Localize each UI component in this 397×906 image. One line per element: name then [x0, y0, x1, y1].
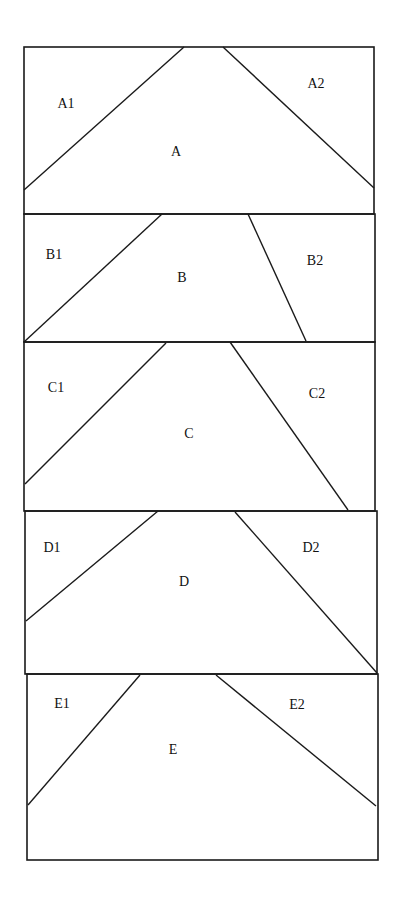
panel-a: AA1A2 — [24, 47, 374, 214]
panel-border — [24, 47, 374, 214]
left-diagonal-line — [26, 511, 158, 621]
right-region-label: E2 — [289, 697, 305, 712]
right-diagonal-line — [230, 342, 348, 510]
left-diagonal-line — [25, 343, 166, 484]
right-region-label: B2 — [307, 253, 323, 268]
panel-border — [27, 674, 378, 860]
panel-border — [24, 342, 375, 511]
center-label: E — [169, 742, 178, 757]
panel-b: BB1B2 — [24, 214, 375, 342]
panel-border — [24, 214, 375, 342]
right-diagonal-line — [235, 512, 377, 673]
left-diagonal-line — [24, 214, 162, 342]
panel-d: DD1D2 — [25, 511, 377, 674]
left-diagonal-line — [24, 47, 184, 190]
left-region-label: C1 — [48, 380, 64, 395]
panel-diagram: AA1A2BB1B2CC1C2DD1D2EE1E2 — [0, 0, 397, 906]
center-label: D — [179, 574, 189, 589]
right-region-label: C2 — [309, 386, 325, 401]
left-region-label: E1 — [54, 696, 70, 711]
left-region-label: B1 — [46, 247, 62, 262]
right-region-label: D2 — [302, 540, 319, 555]
right-diagonal-line — [223, 47, 374, 188]
right-diagonal-line — [248, 214, 306, 341]
left-region-label: A1 — [57, 96, 74, 111]
panel-e: EE1E2 — [27, 674, 378, 860]
right-diagonal-line — [216, 675, 376, 806]
center-label: C — [184, 426, 193, 441]
center-label: A — [171, 144, 182, 159]
right-region-label: A2 — [307, 76, 324, 91]
panel-border — [25, 511, 377, 674]
panel-c: CC1C2 — [24, 342, 375, 511]
center-label: B — [177, 270, 186, 285]
left-region-label: D1 — [43, 540, 60, 555]
left-diagonal-line — [28, 675, 140, 805]
